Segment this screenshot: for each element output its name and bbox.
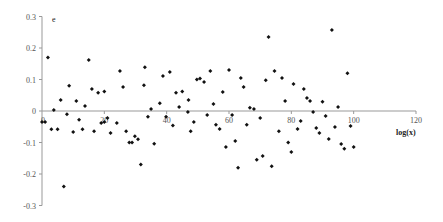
data-point	[133, 134, 137, 138]
y-tick-label: -0.1	[23, 139, 36, 148]
data-point	[305, 96, 309, 100]
data-point	[109, 131, 113, 135]
data-point	[214, 123, 218, 127]
data-point	[336, 105, 340, 109]
data-point	[218, 127, 222, 131]
data-point	[96, 91, 100, 95]
data-point	[90, 87, 94, 91]
data-point	[208, 69, 212, 73]
data-point	[168, 70, 172, 74]
data-point	[242, 85, 246, 89]
data-point	[174, 91, 178, 95]
data-point	[74, 99, 78, 103]
data-point	[236, 166, 240, 170]
data-point	[143, 65, 147, 69]
data-point	[152, 142, 156, 146]
data-point	[87, 58, 91, 62]
data-point	[302, 87, 306, 91]
x-tick-label: 100	[348, 116, 360, 125]
data-point	[314, 126, 318, 130]
y-tick-label: 0.1	[26, 76, 36, 85]
data-point	[321, 100, 325, 104]
data-point	[248, 106, 252, 110]
data-point	[49, 127, 53, 131]
data-point	[224, 145, 228, 149]
data-point	[139, 163, 143, 167]
data-point	[71, 130, 75, 134]
data-point	[255, 158, 259, 162]
data-point	[286, 141, 290, 145]
data-point	[198, 77, 202, 81]
data-point	[327, 137, 331, 141]
data-point	[67, 84, 71, 88]
data-point	[124, 129, 128, 133]
data-point	[273, 69, 277, 73]
data-point	[65, 112, 69, 116]
y-tick-label: 0.3	[26, 13, 36, 22]
data-point	[317, 131, 321, 135]
data-point	[171, 123, 175, 127]
y-tick-label: -0.3	[23, 202, 36, 211]
y-tick-label: -0.2	[23, 170, 36, 179]
data-point	[324, 114, 328, 118]
data-point	[345, 71, 349, 75]
data-point	[227, 68, 231, 72]
data-point	[115, 121, 119, 125]
data-point	[202, 80, 206, 84]
data-point	[221, 90, 225, 94]
data-point	[264, 78, 268, 82]
data-point	[92, 129, 96, 133]
data-point	[239, 76, 243, 80]
data-point	[299, 119, 303, 123]
data-point	[186, 98, 190, 102]
data-point	[289, 150, 293, 154]
data-points	[40, 28, 356, 189]
data-point	[339, 142, 343, 146]
data-point	[342, 147, 346, 151]
data-point	[296, 127, 300, 131]
data-point	[283, 99, 287, 103]
data-point	[261, 154, 265, 158]
data-point	[130, 141, 134, 145]
data-point	[205, 113, 209, 117]
axes	[39, 17, 416, 206]
data-point	[333, 125, 337, 129]
x-tick-label: 60	[225, 116, 233, 125]
data-point	[142, 83, 146, 87]
x-axis-label: log(x)	[396, 128, 416, 137]
data-point	[81, 127, 85, 131]
data-point	[136, 137, 140, 141]
data-point	[118, 69, 122, 73]
data-point	[46, 55, 50, 59]
data-point	[267, 35, 271, 39]
data-point	[161, 74, 165, 78]
data-point	[180, 89, 184, 93]
data-point	[211, 102, 215, 106]
data-point	[189, 129, 193, 133]
data-point	[270, 164, 274, 168]
x-tick-label: 120	[410, 116, 422, 125]
data-point	[158, 101, 162, 105]
data-point	[56, 127, 60, 131]
data-point	[245, 123, 249, 127]
y-tick-label: 0.2	[26, 44, 36, 53]
data-point	[146, 115, 150, 119]
data-point	[62, 185, 66, 189]
y-axis-label: e	[52, 15, 56, 24]
data-point	[292, 82, 296, 86]
scatter-chart: 0.30.20.10-0.1-0.2-0.3204060801001200 e …	[0, 0, 443, 222]
data-point	[330, 28, 334, 32]
data-point	[195, 78, 199, 82]
data-point	[258, 116, 262, 120]
data-point	[277, 129, 281, 133]
data-point	[177, 105, 181, 109]
data-point	[192, 120, 196, 124]
data-point	[121, 85, 125, 89]
data-point	[233, 139, 237, 143]
y-tick-label: 0	[32, 107, 36, 116]
x-tick-label: 80	[287, 116, 295, 125]
data-point	[102, 89, 106, 93]
data-point	[77, 118, 81, 122]
data-point	[280, 76, 284, 80]
data-point	[59, 98, 63, 102]
